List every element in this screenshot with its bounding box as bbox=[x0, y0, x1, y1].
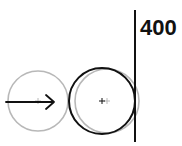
velocity-arrow-icon bbox=[6, 95, 54, 109]
wall-label: 400 bbox=[140, 15, 177, 40]
solid-ball-center-icon bbox=[99, 98, 105, 104]
ghost-ball-start-center-icon bbox=[35, 98, 41, 104]
collision-diagram: 400 bbox=[0, 0, 182, 146]
